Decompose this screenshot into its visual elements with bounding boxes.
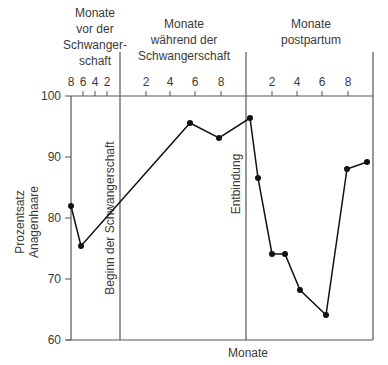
data-point [78, 243, 84, 249]
svg-text:postpartum: postpartum [281, 33, 341, 47]
svg-text:Monate: Monate [164, 17, 204, 31]
data-point [216, 135, 222, 141]
data-point [68, 203, 74, 209]
svg-text:4: 4 [167, 75, 174, 89]
data-point [247, 115, 253, 121]
svg-text:4: 4 [294, 75, 301, 89]
svg-text:8: 8 [68, 75, 75, 89]
pre-pregnancy-header: Monate vor der Schwanger- schaft [63, 6, 127, 68]
svg-text:60: 60 [48, 333, 62, 347]
svg-text:8: 8 [345, 75, 352, 89]
svg-text:Anagenhaare: Anagenhaare [27, 186, 41, 258]
data-point [297, 287, 303, 293]
top-tick-labels: 8 6 4 2 2 4 6 8 2 4 6 8 [68, 75, 352, 89]
y-axis-label: Prozentsatz Anagenhaare [13, 186, 41, 258]
svg-text:Schwanger-: Schwanger- [63, 38, 127, 52]
svg-text:während der: während der [150, 33, 218, 47]
data-point [364, 159, 370, 165]
chart-canvas: Monate vor der Schwanger- schaft Monate … [0, 0, 388, 365]
data-point [323, 312, 329, 318]
svg-text:schaft: schaft [79, 54, 112, 68]
svg-text:vor der: vor der [76, 22, 113, 36]
y-tick-labels: 100 90 80 70 60 [41, 89, 61, 347]
data-point [255, 175, 261, 181]
svg-text:4: 4 [92, 75, 99, 89]
data-point [187, 120, 193, 126]
svg-text:6: 6 [80, 75, 87, 89]
svg-text:80: 80 [48, 211, 62, 225]
data-point [344, 166, 350, 172]
data-point [282, 251, 288, 257]
postpartum-header: Monate postpartum [281, 17, 341, 47]
svg-text:6: 6 [319, 75, 326, 89]
svg-text:100: 100 [41, 89, 61, 103]
svg-text:Monate: Monate [291, 17, 331, 31]
pregnancy-start-label: Beginn der Schwangerschaft [103, 141, 117, 295]
svg-text:6: 6 [192, 75, 199, 89]
svg-text:Schwangerschaft: Schwangerschaft [138, 49, 231, 63]
svg-text:90: 90 [48, 150, 62, 164]
top-ticks [83, 91, 348, 96]
y-ticks [65, 96, 71, 340]
svg-text:8: 8 [218, 75, 225, 89]
data-point [269, 251, 275, 257]
svg-text:2: 2 [104, 75, 111, 89]
pregnancy-header: Monate während der Schwangerschaft [138, 17, 231, 63]
x-axis-label: Monate [228, 346, 268, 360]
svg-text:2: 2 [143, 75, 150, 89]
svg-text:70: 70 [48, 272, 62, 286]
svg-text:2: 2 [269, 75, 276, 89]
svg-text:Monate: Monate [75, 6, 115, 20]
svg-text:Prozentsatz: Prozentsatz [13, 190, 27, 253]
delivery-label: Entbindung [229, 154, 243, 215]
